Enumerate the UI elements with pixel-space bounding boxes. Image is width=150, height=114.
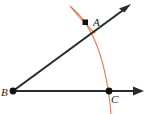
point-b-label: B [1,86,8,98]
geometry-diagram: A B C [0,0,150,114]
point-a-marker [83,20,89,26]
ray-b-to-a-line [13,8,126,91]
geometry-canvas: A B C [0,0,150,114]
point-c-label: C [111,93,119,105]
ray-b-to-c [13,87,144,96]
ray-b-to-c-arrowhead [133,87,144,96]
ray-b-to-a [13,4,131,91]
point-a-label: A [92,16,100,28]
point-b-marker [10,88,17,95]
